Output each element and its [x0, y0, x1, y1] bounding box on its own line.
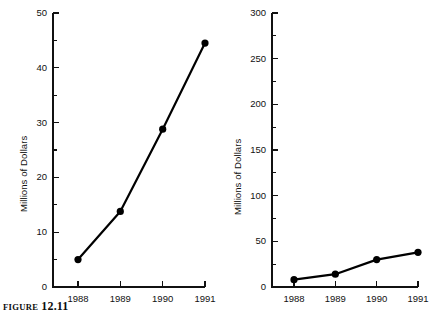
y-tick-label: 50: [230, 235, 266, 246]
data-points: [74, 40, 208, 264]
y-tick-label: 100: [230, 190, 266, 201]
y-tick-label: 200: [230, 98, 266, 109]
y-tick-label: 20: [11, 171, 47, 182]
figure-caption: FIGURE12.11: [3, 299, 69, 314]
y-tick-label: 30: [11, 117, 47, 128]
caption-label: FIGURE: [3, 302, 38, 312]
y-tick-label: 150: [230, 144, 266, 155]
y-tick-label: 0: [11, 281, 47, 292]
data-point: [373, 256, 380, 263]
line-chart-left: Millions of Dollars 01020304050 19881989…: [0, 0, 215, 300]
x-tick-label: 1990: [357, 293, 397, 304]
plot-area-left: [0, 0, 215, 300]
x-tick-label: 1989: [100, 293, 140, 304]
caption-number: 12.11: [41, 299, 68, 313]
x-tick-label: 1991: [398, 293, 433, 304]
y-tick-label: 300: [230, 7, 266, 18]
y-tick-label: 40: [11, 62, 47, 73]
x-tick-label: 1988: [274, 293, 314, 304]
data-point: [74, 256, 81, 263]
data-point: [332, 271, 339, 278]
data-point: [414, 249, 421, 256]
y-tick-label: 250: [230, 53, 266, 64]
line-chart-right: Millions of Dollars 050100150200250300 1…: [210, 0, 425, 300]
y-tick-label: 0: [230, 281, 266, 292]
data-point: [290, 276, 297, 283]
y-tick-label: 50: [11, 7, 47, 18]
y-tick-label: 10: [11, 226, 47, 237]
data-point: [201, 40, 208, 47]
x-tick-label: 1990: [143, 293, 183, 304]
x-tick-label: 1989: [315, 293, 355, 304]
data-point: [159, 126, 166, 133]
data-line: [78, 43, 205, 260]
data-point: [117, 208, 124, 215]
data-line: [294, 252, 418, 279]
